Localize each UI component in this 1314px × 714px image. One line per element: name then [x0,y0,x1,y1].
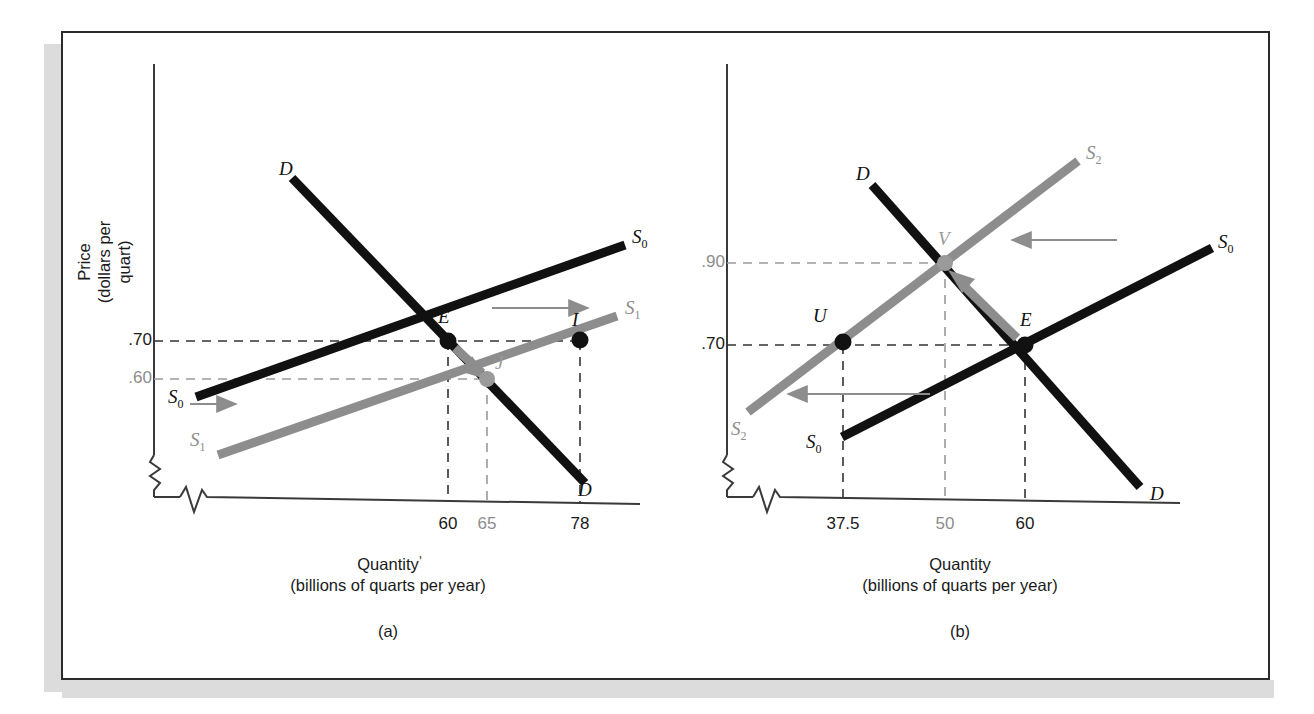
panel-b-label-supply-s2-lower: S2 [731,418,747,444]
panel-b-equilibrium-move-arrow [948,270,1017,338]
panel-a-label-supply-s1-lower: S1 [190,429,206,455]
panel-a-point-j [479,371,495,387]
panel-a-point-i [572,332,589,349]
figure-canvas: Price (dollars per quart) .70 .60 60 65 … [0,0,1314,714]
panel-a-label-supply-s0-upper: S0 [632,226,648,252]
panel-a-y-axis-label: Price (dollars per quart) [74,202,134,322]
panel-b-point-label-v: V [938,228,950,250]
panel-a-gridlines [154,341,580,502]
stray-mark: ' [419,552,422,569]
panel-b-ytick-090: .90 [665,252,725,272]
figure-graphics [0,0,1314,714]
panel-b-point-e [1017,337,1034,354]
panel-b-xtick-60: 60 [995,514,1055,534]
panel-b-x-axis-label: Quantity (billions of quarts per year) [830,554,1090,596]
panel-a-xtick-78: 78 [550,514,610,534]
panel-a-caption: (a) [328,622,448,641]
panel-b-point-label-e: E [1020,309,1032,331]
panel-b-label-demand-lower: D [1150,483,1164,505]
panel-a-supply-curve-s1 [218,316,617,455]
panel-a-point-e [440,333,457,350]
panel-a-label-supply-s1-right: S1 [625,297,641,323]
panel-a-label-demand-upper: D [279,158,293,180]
panel-a-ytick-060: .60 [92,368,152,388]
panel-a-point-label-j: J [495,352,503,374]
panel-a-label-demand-lower: D [578,479,592,501]
panel-b-label-supply-s2-upper: S2 [1086,142,1102,168]
panel-a-point-label-e: E [438,306,450,328]
panel-a-ytick-070: .70 [92,330,152,350]
panel-b-xtick-375: 37.5 [813,514,873,534]
panel-b-supply-curve-s2 [748,161,1078,412]
panel-b-point-label-u: U [813,305,827,327]
panel-a-point-label-i: I [572,309,578,331]
panel-b-axes [723,64,1180,512]
panel-b-label-supply-s0-right: S0 [1218,231,1234,257]
panel-b-label-demand-upper: D [856,163,870,185]
panel-b-point-v [937,255,953,271]
panel-b-demand-curve [872,185,1140,487]
panel-b-caption: (b) [900,622,1020,641]
panel-b-label-supply-s0-lower: S0 [806,431,822,457]
panel-a-supply-curve-s0 [196,245,625,397]
panel-b-xtick-50: 50 [915,514,975,534]
panel-a-label-supply-s0-lower: S0 [168,386,184,412]
panel-a-x-axis-label: Quantity (billions of quarts per year) [258,554,518,596]
panel-b-ytick-070: .70 [665,334,725,354]
panel-a-demand-curve [292,178,585,483]
panel-b-point-u [835,334,852,351]
panel-a-xtick-65: 65 [457,514,517,534]
